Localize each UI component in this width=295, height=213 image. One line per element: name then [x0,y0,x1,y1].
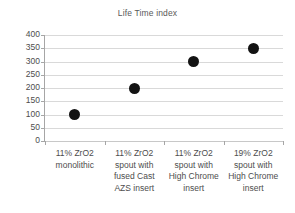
x-axis-category-label-line: High Chrome [225,171,283,183]
y-axis-tick-label: 250 [2,70,40,79]
x-axis-category-label: 11% ZrO2monolithic [45,148,105,213]
x-axis-tick [283,141,284,145]
x-axis-category-label-line: 11% ZrO2 [46,148,104,160]
y-axis-tick [41,75,45,76]
x-axis-category-label-line: spout with [225,160,283,172]
x-axis-tick [164,141,165,145]
data-point-marker[interactable] [188,56,199,67]
data-point-marker[interactable] [129,83,140,94]
y-axis-tick-label: 0 [2,136,40,145]
y-axis-tick-label: 400 [2,30,40,39]
x-axis-category-label-line: AZS insert [106,183,164,195]
x-axis-category-label: 19% ZrO2spout withHigh Chromeinsert [224,148,284,213]
y-axis-tick-label: 150 [2,96,40,105]
x-axis-tick [45,141,46,145]
gridline [45,35,283,36]
y-axis-tick [41,101,45,102]
chart-container: Life Time index 050100150200250300350400… [0,0,295,213]
x-axis-category-label-line: fused Cast [106,171,164,183]
x-axis-category-label-line: spout with [106,160,164,172]
gridline [45,88,283,89]
y-axis-tick-label: 50 [2,123,40,132]
y-axis-tick [41,62,45,63]
plot-area [45,35,283,141]
y-axis-tick [41,115,45,116]
x-axis-category-labels: 11% ZrO2monolithic11% ZrO2spout withfuse… [45,148,283,213]
x-axis-category-label-line: 11% ZrO2 [106,148,164,160]
gridline [45,115,283,116]
gridline [45,101,283,102]
y-axis-tick [41,35,45,36]
gridline [45,62,283,63]
y-axis-tick [41,88,45,89]
x-axis-category-label: 11% ZrO2spout withfused CastAZS insert [105,148,165,213]
x-axis-category-label: 11% ZrO2spout withHigh Chromeinsert [164,148,224,213]
gridline [45,75,283,76]
x-axis-tick [105,141,106,145]
x-axis-tick [224,141,225,145]
y-axis-tick-label: 300 [2,57,40,66]
x-axis-category-label-line: 11% ZrO2 [165,148,223,160]
gridline [45,128,283,129]
y-axis-tick-label: 200 [2,83,40,92]
chart-title: Life Time index [0,8,295,18]
y-axis-tick [41,128,45,129]
y-axis-tick-label: 100 [2,110,40,119]
x-axis-category-label-line: insert [225,183,283,195]
x-axis-category-label-line: monolithic [46,160,104,172]
data-point-marker[interactable] [248,43,259,54]
y-axis-tick-label: 350 [2,43,40,52]
x-axis-category-label-line: spout with [165,160,223,172]
data-point-marker[interactable] [69,109,80,120]
x-axis-category-label-line: High Chrome [165,171,223,183]
y-axis-tick-labels: 050100150200250300350400 [0,0,40,213]
x-axis-category-label-line: 19% ZrO2 [225,148,283,160]
y-axis-tick [41,48,45,49]
x-axis-category-label-line: insert [165,183,223,195]
